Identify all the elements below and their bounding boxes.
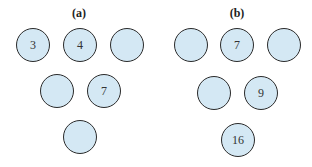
number-circle <box>40 74 74 108</box>
number-circle <box>63 120 97 154</box>
number-circle <box>197 76 231 110</box>
number-circle <box>267 28 301 62</box>
number-circle: 9 <box>244 76 278 110</box>
number-circle: 3 <box>16 28 50 62</box>
number-circle: 4 <box>63 28 97 62</box>
number-circle: 16 <box>221 123 255 157</box>
number-circle: 7 <box>87 74 121 108</box>
panel-title: (a) <box>72 6 86 21</box>
panel-title: (b) <box>230 6 245 21</box>
number-circle: 7 <box>220 28 254 62</box>
number-circle <box>110 28 144 62</box>
number-circle <box>174 28 208 62</box>
